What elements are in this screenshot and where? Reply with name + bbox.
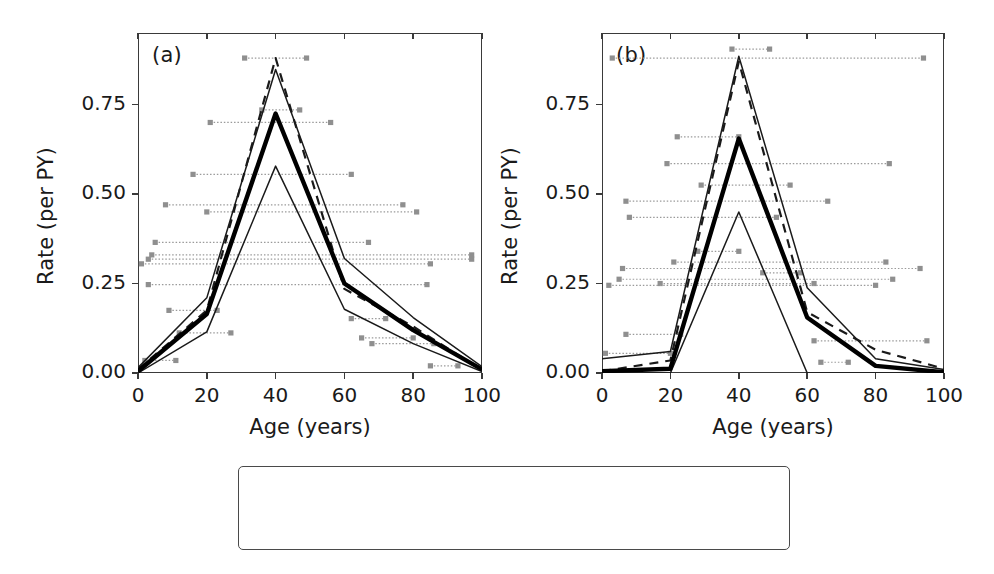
simulated-data-bar (675, 134, 742, 139)
uncertainty-interval-line (602, 56, 944, 369)
simulated-data-bar (623, 199, 830, 204)
y-tick-label: 0.75 (518, 91, 590, 115)
uncertainty-interval-line (602, 212, 944, 373)
x-tick-label: 100 (914, 383, 974, 407)
y-tick-mark (596, 193, 602, 195)
y-tick-label: 0.25 (518, 270, 590, 294)
panel-b-x-axis-label: Age (years) (602, 415, 944, 439)
simulated-data-bar (695, 249, 741, 254)
x-tick-mark (943, 373, 945, 379)
y-tick-mark (596, 104, 602, 106)
simulated-data-bar (664, 161, 892, 166)
x-tick-mark (875, 373, 877, 379)
x-tick-label: 80 (846, 383, 906, 407)
y-tick-label: 0.50 (518, 180, 590, 204)
x-tick-mark (670, 373, 672, 379)
x-tick-mark (601, 373, 603, 379)
y-tick-label: 0.00 (518, 359, 590, 383)
panel-b-y-axis-label: Rate (per PY) (498, 147, 522, 285)
x-tick-mark-top (738, 33, 740, 39)
x-tick-label: 40 (709, 383, 769, 407)
y-tick-mark (596, 283, 602, 285)
x-tick-mark (806, 373, 808, 379)
simulated-data-bar (620, 266, 923, 271)
simulated-data-bar (699, 183, 793, 188)
x-tick-mark-top (943, 33, 945, 39)
simulated-data-bar (610, 55, 926, 60)
simulated-data-bar (729, 47, 772, 52)
x-tick-mark-top (875, 33, 877, 39)
truth-line (602, 62, 944, 372)
x-tick-label: 0 (572, 383, 632, 407)
x-tick-label: 60 (777, 383, 837, 407)
x-tick-label: 20 (640, 383, 700, 407)
legend: Simulated data Truth Posterior mean (238, 466, 790, 550)
x-tick-mark-top (670, 33, 672, 39)
simulated-data-bar (811, 338, 929, 343)
x-tick-mark-top (601, 33, 603, 39)
simulated-data-bar (818, 360, 851, 365)
figure-root: (a) 0.000.250.500.75 020406080100 Age (y… (0, 0, 994, 574)
x-tick-mark-top (806, 33, 808, 39)
x-tick-mark (738, 373, 740, 379)
